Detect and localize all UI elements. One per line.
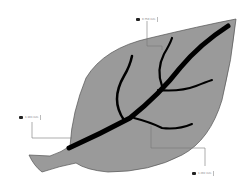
connector-left: [32, 122, 72, 138]
stepper[interactable]: [157, 17, 160, 22]
stepper[interactable]: [40, 115, 43, 120]
measurement-value: 1.103 mm: [25, 114, 38, 121]
measurement-value: 1.292 mm: [198, 170, 211, 177]
camera-icon: [136, 18, 140, 21]
callout-left: 1.103 mm: [19, 114, 43, 121]
measurement-value: 0.750 mm: [142, 16, 155, 23]
stepper[interactable]: [213, 171, 216, 176]
leaf-diagram: [0, 0, 248, 194]
callout-bottom-right: 1.292 mm: [192, 170, 216, 177]
callout-top: 0.750 mm: [136, 16, 160, 23]
camera-icon: [192, 172, 196, 175]
camera-icon: [19, 116, 23, 119]
